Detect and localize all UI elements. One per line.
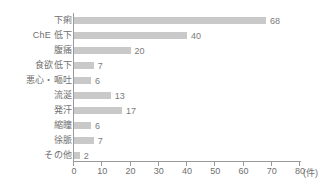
bar-value-label: 17 [122, 106, 136, 117]
x-tick-label: 60 [238, 166, 248, 176]
chart-row: 発汗17 [0, 103, 333, 118]
x-axis-line [73, 161, 301, 162]
bar [74, 17, 266, 24]
category-label: その他 [44, 148, 72, 163]
chart-row: 悪心・嘔吐6 [0, 73, 333, 88]
bar-container: 20 [74, 47, 131, 54]
category-label: ChE 低下 [33, 28, 72, 43]
bar-value-label: 7 [94, 136, 103, 147]
bar-container: 6 [74, 77, 91, 84]
x-tick-label: 10 [97, 166, 107, 176]
bar [74, 107, 122, 114]
bar-container: 68 [74, 17, 266, 24]
bar-container: 13 [74, 92, 111, 99]
y-axis-line [73, 13, 74, 161]
chart-row: 腹痛20 [0, 43, 333, 58]
bar [74, 92, 111, 99]
bar-value-label: 7 [94, 61, 103, 72]
bar-value-label: 40 [187, 31, 201, 42]
x-tick-label: 40 [182, 166, 192, 176]
bar-container: 7 [74, 137, 94, 144]
x-axis-unit-label: (件) [303, 166, 318, 179]
bar-container: 6 [74, 122, 91, 129]
bar-value-label: 68 [266, 16, 280, 27]
bar [74, 77, 91, 84]
chart-row: 徐脈7 [0, 133, 333, 148]
chart-row: 流涎13 [0, 88, 333, 103]
x-tick-label: 70 [267, 166, 277, 176]
bar-container: 17 [74, 107, 122, 114]
chart-row: 下痢68 [0, 13, 333, 28]
category-label: 徐脈 [54, 133, 72, 148]
bar-value-label: 13 [111, 91, 125, 102]
bar [74, 62, 94, 69]
x-tick-label: 20 [125, 166, 135, 176]
category-label: 下痢 [54, 13, 72, 28]
bar [74, 47, 131, 54]
chart-row: 食欲低下7 [0, 58, 333, 73]
chart-row: 縮瞳6 [0, 118, 333, 133]
bar-value-label: 6 [91, 121, 100, 132]
bar [74, 122, 91, 129]
x-tick-label: 50 [210, 166, 220, 176]
bar-container: 7 [74, 62, 94, 69]
category-label: 発汗 [54, 103, 72, 118]
bar-container: 2 [74, 152, 80, 159]
x-tick-label: 0 [71, 166, 76, 176]
bar-value-label: 20 [131, 46, 145, 57]
bar-value-label: 6 [91, 76, 100, 87]
bar-chart: 下痢68ChE 低下40腹痛20食欲低下7悪心・嘔吐6流涎13発汗17縮瞳6徐脈… [0, 0, 333, 194]
category-label: 食欲低下 [35, 58, 72, 73]
category-label: 縮瞳 [54, 118, 72, 133]
category-label: 腹痛 [54, 43, 72, 58]
bar [74, 137, 94, 144]
category-label: 流涎 [54, 88, 72, 103]
category-label: 悪心・嘔吐 [26, 73, 72, 88]
bar-container: 40 [74, 32, 187, 39]
x-tick-label: 30 [154, 166, 164, 176]
bar [74, 32, 187, 39]
chart-row: ChE 低下40 [0, 28, 333, 43]
